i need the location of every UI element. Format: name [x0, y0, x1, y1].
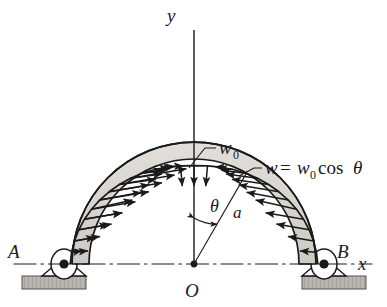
x-axis-label: x — [357, 253, 367, 274]
support-b-label: B — [337, 241, 349, 262]
equation-equals: = — [280, 157, 291, 178]
load-peak-subscript: 0 — [233, 148, 239, 162]
equation-w0-subscript: 0 — [310, 168, 316, 182]
equation-theta: θ — [353, 157, 362, 178]
equation-w0: w — [297, 157, 310, 178]
load-peak-symbol: w — [219, 137, 232, 158]
support-a-label: A — [6, 241, 20, 262]
ground-support-right — [302, 276, 366, 289]
ground-support-left — [22, 276, 86, 289]
equation-cos: cos — [318, 157, 343, 178]
radius-label: a — [233, 203, 242, 222]
equation-w: w — [265, 157, 278, 178]
arch-load-diagram: y x O A B θ a w 0 w = w 0 cos θ — [0, 0, 387, 307]
origin-label: O — [185, 280, 199, 301]
theta-angle-arc — [194, 218, 217, 224]
theta-label: θ — [210, 196, 219, 216]
y-axis-label: y — [165, 5, 176, 26]
